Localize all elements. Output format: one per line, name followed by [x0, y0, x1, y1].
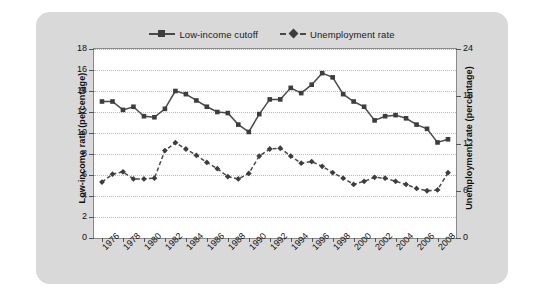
data-point-square	[100, 99, 105, 104]
data-point-square	[320, 71, 325, 76]
y-tick-mark-left	[89, 133, 94, 134]
data-point-diamond	[435, 187, 441, 193]
data-point-square	[299, 91, 304, 96]
data-point-square	[152, 115, 157, 120]
y-tick-mark-left	[89, 91, 94, 92]
data-point-diamond	[162, 148, 168, 154]
y-tick-mark-left	[89, 217, 94, 218]
y-tick-mark-left	[89, 196, 94, 197]
data-point-diamond	[172, 140, 178, 146]
data-point-square	[142, 114, 147, 119]
y-tick-mark-right	[456, 96, 461, 97]
data-point-diamond	[330, 170, 336, 176]
left-axis-title: Low-income rate (percentage)	[77, 38, 87, 238]
data-point-square	[205, 104, 210, 109]
right-axis-title: Unemployment rate (percentage)	[464, 38, 474, 238]
data-point-diamond	[361, 178, 367, 184]
data-point-square	[309, 82, 314, 87]
data-point-square	[226, 111, 231, 116]
data-point-square	[351, 99, 356, 104]
data-point-square	[110, 99, 115, 104]
data-point-square	[383, 114, 388, 119]
legend-entry-unemployment-rate: Unemployment rate	[280, 29, 395, 40]
data-point-square	[163, 107, 168, 112]
data-point-diamond	[309, 159, 315, 165]
y-tick-mark-left	[89, 175, 94, 176]
data-point-diamond	[288, 153, 294, 159]
data-point-diamond	[340, 175, 346, 181]
data-point-diamond	[183, 146, 189, 152]
data-point-diamond	[382, 175, 388, 181]
legend-entry-low-income-cutoff: Low-income cutoff	[149, 29, 258, 40]
data-point-square	[194, 98, 199, 103]
data-point-square	[414, 122, 419, 127]
y-tick-mark-left	[89, 112, 94, 113]
y-tick-mark-left	[89, 49, 94, 50]
legend-marker-square-icon	[149, 29, 175, 39]
y-tick-mark-left	[89, 154, 94, 155]
data-point-square	[404, 116, 409, 121]
data-point-square	[393, 113, 398, 118]
data-point-square	[121, 108, 126, 113]
y-tick-mark-right	[456, 144, 461, 145]
data-point-diamond	[403, 182, 409, 188]
data-point-square	[257, 112, 262, 117]
y-tick-mark-right	[456, 49, 461, 50]
figure-card: Low-income cutoff Unemployment rate 0246…	[36, 12, 508, 284]
data-point-diamond	[393, 178, 399, 184]
data-point-square	[288, 86, 293, 91]
data-point-diamond	[141, 176, 147, 182]
y-tick-mark-left	[89, 70, 94, 71]
data-point-square	[330, 75, 335, 80]
data-point-square	[131, 104, 136, 109]
data-point-square	[278, 97, 283, 102]
legend-label-unemployment-rate: Unemployment rate	[310, 29, 395, 40]
y-tick-mark-left	[89, 238, 94, 239]
data-point-square	[446, 137, 451, 142]
legend-marker-diamond-icon	[280, 29, 306, 39]
data-point-diamond	[235, 176, 241, 182]
data-point-square	[215, 110, 220, 115]
data-point-square	[173, 89, 178, 94]
series-layer	[94, 49, 456, 238]
data-point-diamond	[319, 163, 325, 169]
data-point-diamond	[414, 185, 420, 191]
data-point-diamond	[246, 171, 252, 177]
plot-area: 0246810121416180612182419761978198019821…	[93, 48, 457, 239]
data-point-square	[184, 92, 189, 97]
data-point-diamond	[351, 182, 357, 188]
y-tick-mark-right	[456, 191, 461, 192]
data-point-square	[341, 92, 346, 97]
data-point-square	[236, 122, 241, 127]
chart-legend: Low-income cutoff Unemployment rate	[36, 26, 508, 42]
data-point-diamond	[372, 174, 378, 180]
data-point-diamond	[298, 160, 304, 166]
series-line-1	[102, 73, 448, 142]
data-point-diamond	[424, 188, 430, 194]
data-point-square	[425, 127, 430, 132]
data-point-square	[372, 118, 377, 123]
data-point-square	[267, 97, 272, 102]
data-point-diamond	[152, 175, 158, 181]
data-point-square	[246, 130, 251, 135]
legend-label-low-income-cutoff: Low-income cutoff	[179, 29, 258, 40]
data-point-square	[362, 104, 367, 109]
data-point-square	[435, 140, 440, 145]
